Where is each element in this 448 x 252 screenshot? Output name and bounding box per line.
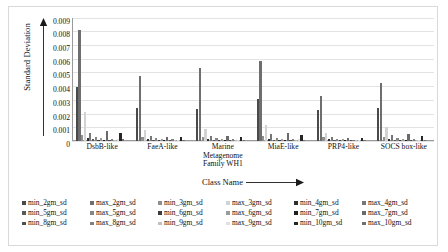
- bar: [380, 83, 382, 141]
- legend-row: min_2gm_sdmax_2gm_sdmin_3gm_sdmax_3gm_sd…: [22, 199, 430, 207]
- y-axis-tick-label: 0.008: [53, 31, 70, 39]
- legend-swatch-icon: [226, 222, 230, 226]
- bar-group: [193, 18, 253, 142]
- chart-figure: Standard Deviation 0.0090.0080.0070.0060…: [0, 0, 448, 252]
- y-axis-tick-label: 0.002: [53, 114, 70, 122]
- bar-group-bars: [313, 18, 373, 142]
- bar-group: [313, 18, 373, 142]
- legend-label: min_6gm_sd: [164, 209, 203, 217]
- bar: [363, 140, 365, 141]
- bar: [424, 140, 426, 141]
- legend-item[interactable]: max_7gm_sd: [362, 209, 430, 217]
- legend-label: max_9gm_sd: [232, 219, 272, 227]
- bar-group: [132, 18, 192, 142]
- plot-area: [72, 18, 434, 142]
- legend-item[interactable]: min_2gm_sd: [22, 199, 90, 207]
- bar: [139, 76, 141, 141]
- legend-swatch-icon: [22, 201, 26, 205]
- bar: [259, 61, 261, 141]
- legend-item[interactable]: min_6gm_sd: [158, 209, 226, 217]
- x-axis-arrow-icon: [246, 178, 304, 187]
- legend: min_2gm_sdmax_2gm_sdmin_3gm_sdmax_3gm_sd…: [22, 199, 430, 230]
- legend-item[interactable]: min_4gm_sd: [294, 199, 362, 207]
- legend-item[interactable]: max_2gm_sd: [90, 199, 158, 207]
- legend-label: max_2gm_sd: [96, 199, 136, 207]
- bar-groups: [72, 18, 434, 142]
- legend-item[interactable]: min_9gm_sd: [158, 219, 226, 227]
- bar-group: [374, 18, 434, 142]
- bar-group-bars: [132, 18, 192, 142]
- x-axis-tick-label: SOCS box-like: [374, 143, 434, 175]
- y-axis-ticks: 0.0090.0080.0070.0060.0050.0040.0030.002…: [44, 14, 70, 142]
- y-axis-tick-label: 0: [66, 141, 70, 149]
- legend-item[interactable]: max_3gm_sd: [226, 199, 294, 207]
- legend-swatch-icon: [362, 222, 366, 226]
- legend-swatch-icon: [90, 201, 94, 205]
- bar: [199, 68, 201, 141]
- x-axis-tick-labels: DsbB-likeFaeA-likeMarine Metagenome Fami…: [72, 143, 434, 175]
- bar-group-bars: [253, 18, 313, 142]
- legend-item[interactable]: max_6gm_sd: [226, 209, 294, 217]
- y-axis-tick-label: 0.005: [53, 72, 70, 80]
- legend-item[interactable]: min_8gm_sd: [22, 219, 90, 227]
- y-axis-tick-label: 0.009: [53, 18, 70, 26]
- bar: [182, 140, 184, 141]
- legend-label: min_8gm_sd: [28, 219, 67, 227]
- legend-label: max_6gm_sd: [232, 209, 272, 217]
- legend-swatch-icon: [22, 211, 26, 215]
- legend-swatch-icon: [90, 211, 94, 215]
- legend-row: min_8gm_sdmax_8gm_sdmin_9gm_sdmax_9gm_sd…: [22, 219, 430, 227]
- legend-swatch-icon: [90, 222, 94, 226]
- y-axis-tick-label: 0.003: [53, 100, 70, 108]
- bar: [243, 140, 245, 141]
- gridline: [72, 141, 434, 142]
- legend-label: max_5gm_sd: [96, 209, 136, 217]
- legend-label: min_2gm_sd: [28, 199, 67, 207]
- legend-label: max_3gm_sd: [232, 199, 272, 207]
- y-axis-tick-label: 0.001: [53, 127, 70, 135]
- legend-label: min_10gm_sd: [300, 219, 342, 227]
- legend-item[interactable]: max_10gm_sd: [362, 219, 430, 227]
- legend-item[interactable]: max_8gm_sd: [90, 219, 158, 227]
- legend-label: min_9gm_sd: [164, 219, 203, 227]
- legend-label: min_7gm_sd: [300, 209, 339, 217]
- legend-swatch-icon: [362, 211, 366, 215]
- bar: [122, 139, 124, 141]
- legend-item[interactable]: min_10gm_sd: [294, 219, 362, 227]
- legend-swatch-icon: [294, 211, 298, 215]
- bar-group-bars: [193, 18, 253, 142]
- legend-item[interactable]: min_7gm_sd: [294, 209, 362, 217]
- legend-label: min_3gm_sd: [164, 199, 203, 207]
- legend-label: max_10gm_sd: [368, 219, 412, 227]
- legend-swatch-icon: [226, 211, 230, 215]
- bar-group: [253, 18, 313, 142]
- y-axis-tick-label: 0.004: [53, 86, 70, 94]
- legend-item[interactable]: max_5gm_sd: [90, 209, 158, 217]
- legend-item[interactable]: max_4gm_sd: [362, 199, 430, 207]
- x-axis-tick-label: PRP4-like: [313, 143, 373, 175]
- bar: [320, 96, 322, 141]
- bar-group-bars: [374, 18, 434, 142]
- legend-swatch-icon: [158, 222, 162, 226]
- legend-swatch-icon: [362, 201, 366, 205]
- x-axis-tick-label: Marine Metagenome Family WH1: [193, 143, 253, 175]
- bar: [78, 30, 80, 141]
- x-axis-title-wrap: Class Name: [72, 175, 434, 189]
- legend-label: min_4gm_sd: [300, 199, 339, 207]
- legend-label: max_8gm_sd: [96, 219, 136, 227]
- bar-group: [72, 18, 132, 142]
- legend-swatch-icon: [158, 201, 162, 205]
- bar-group-bars: [72, 18, 132, 142]
- y-axis-tick-label: 0.006: [53, 59, 70, 67]
- legend-swatch-icon: [22, 222, 26, 226]
- x-axis-tick-label: MiaE-like: [253, 143, 313, 175]
- x-axis-tick-label: FaeA-like: [132, 143, 192, 175]
- legend-swatch-icon: [294, 201, 298, 205]
- legend-item[interactable]: min_3gm_sd: [158, 199, 226, 207]
- legend-swatch-icon: [294, 222, 298, 226]
- legend-item[interactable]: min_5gm_sd: [22, 209, 90, 217]
- x-axis-tick-label: DsbB-like: [72, 143, 132, 175]
- legend-item[interactable]: max_9gm_sd: [226, 219, 294, 227]
- bar: [303, 140, 305, 141]
- legend-swatch-icon: [158, 211, 162, 215]
